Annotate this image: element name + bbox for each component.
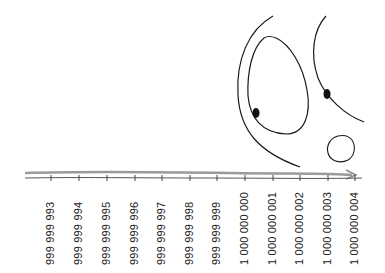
left-pupil <box>253 108 260 118</box>
tick-label: 999 999 998 <box>183 202 195 265</box>
mouth <box>327 136 354 162</box>
number-line <box>25 178 362 179</box>
tick-label: 1 000 000 004 <box>348 192 360 265</box>
tick-label: 999 999 999 <box>210 202 222 265</box>
tick-label: 1 000 000 002 <box>293 192 305 265</box>
tick-label: 999 999 997 <box>155 202 167 265</box>
head-outline-left <box>238 16 300 167</box>
arrow-shaft <box>25 172 352 175</box>
tick-label: 1 000 000 003 <box>321 192 333 265</box>
right-pupil <box>324 89 331 99</box>
tick-label: 1 000 000 001 <box>266 192 278 265</box>
tick-label: 999 999 993 <box>44 202 56 265</box>
tick-label: 1 000 000 000 <box>238 192 250 265</box>
tick-label: 999 999 995 <box>100 202 112 265</box>
left-eye <box>248 37 308 135</box>
illustration: 999 999 993999 999 994999 999 995999 999… <box>0 0 385 273</box>
head-outline-right <box>314 16 364 122</box>
tick-label: 999 999 994 <box>72 202 84 265</box>
tick-label: 999 999 996 <box>128 202 140 265</box>
